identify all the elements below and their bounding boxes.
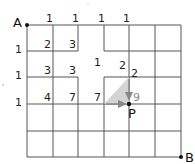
path-count-label: 1 <box>123 13 130 24</box>
path-count-label: 1 <box>98 13 105 24</box>
path-count-label: 1 <box>15 70 22 81</box>
point-b-dot <box>179 155 183 159</box>
highlight-count-label: 9 <box>133 92 140 103</box>
path-count-label: 1 <box>46 13 53 24</box>
path-count-label: 1 <box>15 44 22 55</box>
path-count-label: 3 <box>69 39 76 50</box>
point-b-label: B <box>185 151 194 164</box>
path-count-label: 2 <box>131 68 138 79</box>
path-count-label: 3 <box>44 65 51 76</box>
path-count-label: 4 <box>44 92 51 103</box>
speck <box>2 84 4 86</box>
path-count-label: 7 <box>69 92 76 103</box>
path-count-label: 1 <box>72 13 79 24</box>
path-count-label: 2 <box>44 39 51 50</box>
speck <box>87 3 88 4</box>
path-count-label: 1 <box>94 57 101 68</box>
path-count-label: 7 <box>94 92 101 103</box>
path-count-label: 1 <box>15 97 22 108</box>
point-a-dot <box>25 23 29 27</box>
point-p-label: P <box>128 107 136 120</box>
path-count-label: 2 <box>119 60 126 71</box>
shaded-triangle <box>104 77 129 104</box>
point-a-label: A <box>13 16 22 29</box>
path-count-label: 3 <box>69 65 76 76</box>
